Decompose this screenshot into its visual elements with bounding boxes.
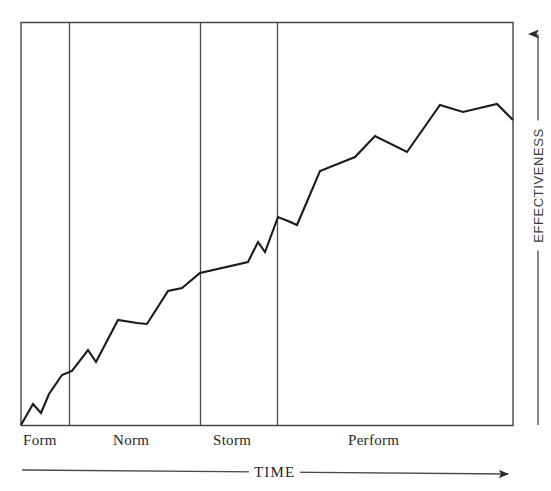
chart-background: [0, 0, 551, 491]
stage-label-perform: Perform: [348, 432, 399, 449]
stage-label-storm: Storm: [213, 432, 251, 449]
effectiveness-vs-time-chart: [0, 0, 551, 491]
x-axis-title: TIME: [249, 464, 300, 481]
stage-label-norm: Norm: [113, 432, 149, 449]
stage-label-form: Form: [23, 432, 57, 449]
y-axis-title: EFFECTIVENESS: [531, 121, 546, 251]
